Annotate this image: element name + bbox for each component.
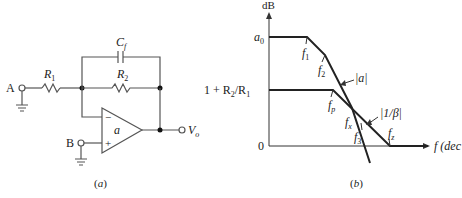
circuit-schematic: A R1 Cf R2 − + a B: [6, 35, 199, 190]
terminal-a-label: A: [6, 81, 15, 95]
resistor-r2: [82, 84, 160, 92]
node-output: [158, 128, 163, 133]
r2-label: R2: [116, 67, 128, 83]
y-label-closed-loop-gain: 1 + R2/R1: [204, 83, 250, 99]
arrow-icon-a: [340, 80, 346, 86]
terminal-a: [19, 85, 25, 91]
bode-plot: dB f (dec a0 1 + R2/R1 0 f1 f2 fp fx f3 …: [204, 0, 462, 190]
output-terminal: [179, 127, 185, 133]
opamp-gain-label: a: [114, 123, 120, 137]
ground-icon-a: [16, 105, 28, 111]
label-f1: f1: [302, 46, 309, 62]
opamp-inverting-sign: −: [105, 111, 111, 123]
terminal-b-label: B: [66, 136, 74, 150]
y-axis-arrow-icon: [266, 12, 272, 19]
figure-canvas: A R1 Cf R2 − + a B: [0, 0, 462, 198]
x-axis-label: f (dec: [434, 139, 462, 153]
y-axis-label: dB: [262, 0, 275, 11]
capacitor-cf: [118, 51, 123, 63]
y-label-a0: a0: [254, 30, 264, 46]
caption-b: (b): [350, 177, 363, 190]
r1-label: R1: [43, 67, 55, 83]
inverse-beta-curve: [269, 90, 428, 146]
curve-label-beta: |1/β|: [380, 106, 402, 120]
label-fp: fp: [328, 98, 335, 114]
label-fz: fz: [388, 126, 395, 142]
cf-label: Cf: [116, 35, 128, 51]
resistor-r1: [42, 84, 60, 92]
open-loop-gain-curve: [269, 37, 370, 163]
output-label: Vo: [188, 123, 199, 139]
opamp-noninverting-sign: +: [105, 137, 111, 149]
ground-icon-b: [75, 159, 87, 165]
y-label-zero: 0: [258, 139, 264, 153]
caption-a: (a): [94, 177, 107, 190]
terminal-b: [78, 140, 84, 146]
curve-label-a: |a|: [355, 71, 368, 85]
label-fx: fx: [345, 115, 352, 131]
label-f2: f2: [318, 63, 325, 79]
